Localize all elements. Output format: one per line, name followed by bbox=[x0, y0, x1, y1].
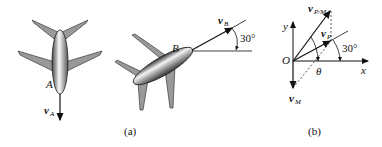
v-pm-symbol: v bbox=[308, 2, 313, 14]
velocity-a-symbol: v bbox=[44, 104, 49, 116]
origin-label: O bbox=[282, 54, 290, 66]
vector-v-p bbox=[293, 41, 330, 61]
y-axis-label: y bbox=[282, 20, 288, 32]
v-p-subscript: P bbox=[326, 33, 332, 41]
angle-30-label-a: 30° bbox=[240, 32, 255, 44]
velocity-b-extension bbox=[232, 20, 246, 28]
velocity-b-symbol: v bbox=[218, 14, 223, 26]
v-p-extension bbox=[330, 31, 348, 41]
plane-b bbox=[115, 34, 197, 110]
plane-b-label: B bbox=[172, 42, 179, 54]
angle-arc-b bbox=[232, 28, 237, 50]
caption-a: (a) bbox=[124, 125, 137, 138]
diagram-canvas: A v A 30° B v B (a) y x O θ 30° v P/M v bbox=[0, 0, 382, 147]
angle-30-label-b: 30° bbox=[342, 42, 357, 54]
v-m-symbol: v bbox=[289, 92, 294, 104]
caption-b: (b) bbox=[308, 125, 321, 138]
angle-theta-label: θ bbox=[316, 65, 322, 77]
angle-arc-30 bbox=[333, 40, 340, 61]
dashed-diagonal bbox=[293, 41, 331, 88]
v-p-symbol: v bbox=[321, 27, 326, 39]
x-axis-label: x bbox=[360, 64, 366, 76]
velocity-b-subscript: B bbox=[224, 20, 229, 28]
plane-a-label: A bbox=[45, 78, 53, 90]
velocity-a-subscript: A bbox=[49, 110, 55, 118]
v-pm-subscript: P/M bbox=[313, 8, 327, 16]
v-m-subscript: M bbox=[294, 98, 302, 106]
velocity-vector-b bbox=[192, 28, 232, 50]
plane-a bbox=[18, 20, 102, 94]
